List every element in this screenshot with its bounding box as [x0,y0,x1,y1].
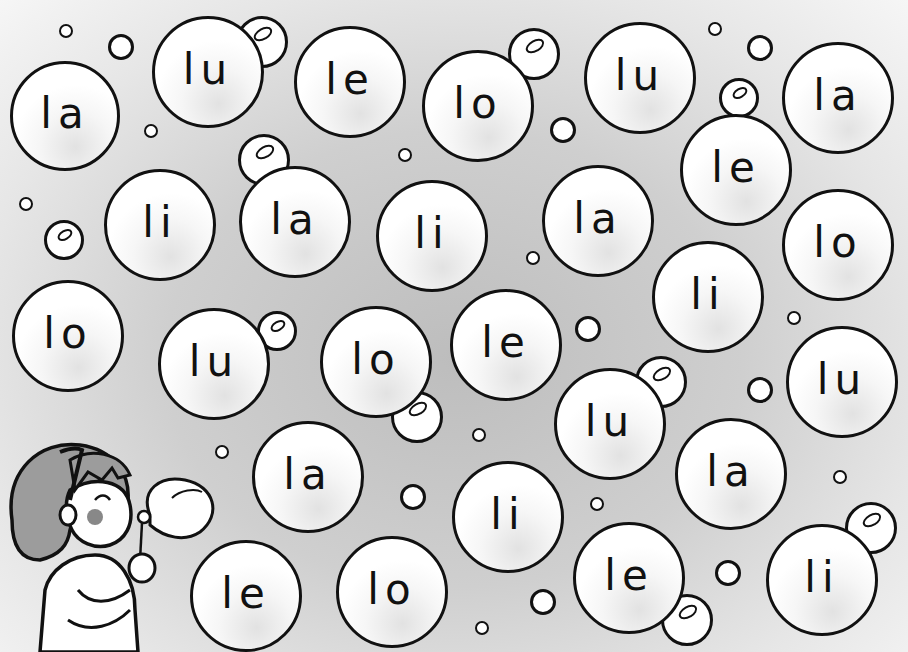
syllable-bubble-lu[interactable]: lu [152,16,264,128]
syllable-label: la [573,198,622,240]
syllable-label: lo [367,569,416,611]
syllable-label: le [604,555,654,597]
syllable-label: lo [453,83,502,125]
small-bubble-icon [59,24,73,38]
syllable-label: li [414,213,449,255]
syllable-label: la [283,454,332,496]
syllable-label: la [270,199,319,241]
syllable-label: li [142,202,177,244]
syllable-bubble-la[interactable]: la [252,421,364,533]
syllable-bubble-le[interactable]: le [294,26,406,138]
syllable-bubble-la[interactable]: la [782,42,894,154]
syllable-bubble-li[interactable]: li [766,524,878,636]
small-bubble-icon [550,117,576,143]
syllable-bubble-li[interactable]: li [104,169,216,281]
syllable-label: la [40,93,89,135]
syllable-label: lu [189,341,239,383]
syllable-bubble-lu[interactable]: lu [584,22,696,134]
syllable-bubble-lo[interactable]: lo [336,536,448,648]
small-bubble-icon [108,34,134,60]
syllable-bubble-le[interactable]: le [450,289,562,401]
syllable-bubble-li[interactable]: li [652,241,764,353]
syllable-bubble-lu[interactable]: lu [158,308,270,420]
syllable-bubble-lo[interactable]: lo [782,189,894,301]
syllable-label: lo [813,222,862,264]
syllable-label: lu [817,359,867,401]
small-bubble-icon [747,35,773,61]
small-bubble-icon [747,377,773,403]
small-bubble-icon [833,470,847,484]
small-bubble-icon [715,560,741,586]
worksheet-canvas: lalulelolulalelilalilalolilolulolelulula… [0,0,908,652]
syllable-bubble-li[interactable]: li [452,461,564,573]
syllable-label: la [813,75,862,117]
syllable-bubble-lo[interactable]: lo [12,280,124,392]
syllable-bubble-lo[interactable]: lo [320,306,432,418]
syllable-label: lu [183,49,233,91]
small-bubble-icon [475,621,489,635]
syllable-label: li [490,494,525,536]
syllable-label: le [325,59,375,101]
small-bubble-icon [530,589,556,615]
small-bubble-icon [575,316,601,342]
syllable-bubble-la[interactable]: la [542,165,654,277]
small-bubble-icon [19,197,33,211]
small-bubble-icon [398,148,412,162]
small-bubble-icon [526,251,540,265]
syllable-bubble-la[interactable]: la [10,61,120,171]
small-bubble-icon [44,220,84,260]
syllable-label: le [481,322,531,364]
syllable-bubble-li[interactable]: li [376,180,488,292]
syllable-label: la [706,451,755,493]
small-bubble-icon [708,22,722,36]
syllable-label: li [804,557,839,599]
small-bubble-icon [400,484,426,510]
syllable-label: lu [615,55,665,97]
syllable-label: lo [351,339,400,381]
syllable-label: le [711,147,761,189]
small-bubble-icon [719,78,759,118]
syllable-bubble-la[interactable]: la [675,418,787,530]
girl-blowing-bubbles-illustration [0,420,230,652]
syllable-bubble-le[interactable]: le [573,522,685,634]
syllable-label: li [690,274,725,316]
small-bubble-icon [144,124,158,138]
syllable-bubble-le[interactable]: le [680,114,792,226]
syllable-bubble-lu[interactable]: lu [554,368,666,480]
syllable-bubble-lo[interactable]: lo [422,50,534,162]
small-bubble-icon [787,311,801,325]
syllable-label: lo [43,313,92,355]
syllable-bubble-la[interactable]: la [239,166,351,278]
small-bubble-icon [472,428,486,442]
small-bubble-icon [590,497,604,511]
syllable-bubble-lu[interactable]: lu [786,326,898,438]
syllable-label: lu [585,401,635,443]
